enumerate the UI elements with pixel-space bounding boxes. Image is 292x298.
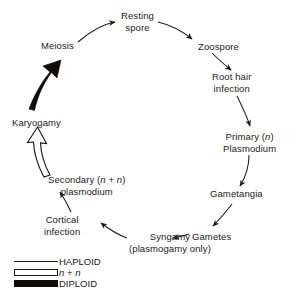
haploid-edges: [60, 22, 250, 238]
node-secondary-plasmodium: Secondary (n + n) plasmodium: [48, 174, 126, 197]
legend: HAPLOID n + n DIPLOID: [14, 256, 134, 289]
node-karyogamy: Karyogamy: [12, 117, 61, 129]
node-karyogamy-line-1: Karyogamy: [12, 117, 61, 129]
node-primary-plasmodium: Primary (n) Plasmodium: [223, 131, 276, 154]
node-cortical-infection: Cortical infection: [44, 214, 80, 237]
node-gametangia-line-1: Gametangia: [210, 188, 263, 200]
node-syngamy-line-2: (plasmogamy only): [129, 243, 211, 255]
node-resting-spore-line-2: spore: [121, 22, 154, 34]
legend-nn-italic-b: n: [75, 267, 80, 278]
edge-secondary-to-karyogamy: [28, 127, 51, 177]
legend-swatch-hollow-bar: [14, 269, 58, 276]
edge-meiosis-to-resting-spore: [78, 22, 115, 42]
node-meiosis-line-1: Meiosis: [41, 40, 74, 52]
node-resting-spore-line-1: Resting: [121, 10, 154, 22]
node-meiosis: Meiosis: [41, 40, 74, 52]
node-root-hair-line-2: infection: [212, 83, 251, 95]
node-resting-spore: Resting spore: [121, 10, 154, 33]
node-zoospore: Zoospore: [198, 41, 239, 53]
secondary-suffix: ): [122, 174, 125, 185]
edge-karyogamy-to-meiosis: [29, 60, 61, 111]
edge-syngamy-to-cortical: [101, 223, 127, 238]
primary-prefix: Primary (: [226, 131, 265, 142]
legend-item-diploid: DIPLOID: [14, 278, 134, 289]
edge-root-hair-to-primary: [237, 96, 250, 126]
legend-label-diploid: DIPLOID: [59, 279, 97, 289]
edge-zoospore-to-root-hair: [212, 53, 231, 70]
legend-label-haploid: HAPLOID: [59, 257, 101, 267]
legend-swatch-haploid-line: [14, 261, 58, 262]
primary-suffix: ): [270, 131, 273, 142]
node-primary-line-2: Plasmodium: [223, 143, 276, 155]
node-primary-line-1: Primary (n): [223, 131, 276, 143]
secondary-prefix: Secondary (: [48, 174, 100, 185]
secondary-plus: +: [106, 174, 117, 185]
node-root-hair-line-1: Root hair: [212, 71, 251, 83]
legend-item-n-plus-n: n + n: [14, 267, 134, 278]
node-cortical-line-2: infection: [44, 226, 80, 238]
legend-swatch-filled-bar: [14, 280, 58, 287]
edge-primary-to-gametangia: [240, 155, 249, 186]
node-cortical-line-1: Cortical: [44, 214, 80, 226]
legend-label-n-plus-n: n + n: [59, 268, 80, 278]
node-secondary-line-2: plasmodium: [48, 186, 126, 198]
node-syngamy-line-1: Syngamy: [129, 231, 211, 243]
edge-resting-spore-to-zoospore: [158, 22, 192, 39]
node-syngamy: Syngamy (plasmogamy only): [129, 231, 211, 254]
node-zoospore-line-1: Zoospore: [198, 41, 239, 53]
node-gametangia: Gametangia: [210, 188, 263, 200]
node-secondary-line-1: Secondary (n + n): [48, 174, 126, 186]
node-root-hair-infection: Root hair infection: [212, 71, 251, 94]
legend-item-haploid: HAPLOID: [14, 256, 134, 267]
legend-nn-plus: +: [64, 267, 75, 278]
edge-gametangia-to-gametes: [213, 204, 232, 226]
life-cycle-diagram: Meiosis Resting spore Zoospore Root hair…: [0, 0, 292, 298]
